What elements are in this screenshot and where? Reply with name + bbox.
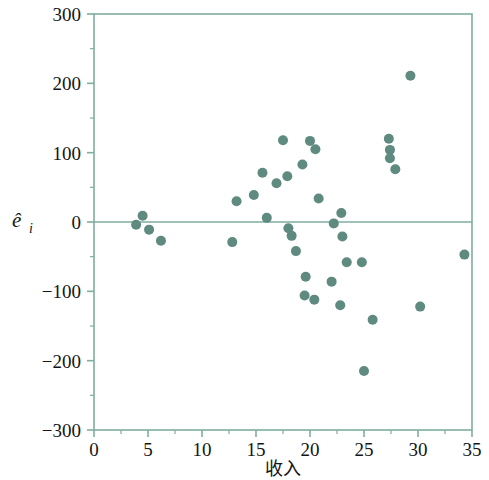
x-tick-label: 5: [143, 439, 153, 460]
x-axis-title: 收入: [265, 458, 301, 479]
data-point: [272, 178, 282, 188]
data-point: [301, 272, 311, 282]
y-tick-label: −200: [42, 351, 81, 372]
data-point: [232, 196, 242, 206]
y-tick-label: −100: [42, 281, 81, 302]
data-point: [309, 295, 319, 305]
data-point: [459, 250, 469, 260]
data-point: [227, 237, 237, 247]
data-point: [257, 168, 267, 178]
data-point: [138, 211, 148, 221]
data-point: [282, 171, 292, 181]
data-point: [262, 213, 272, 223]
x-tick-label: 25: [355, 439, 374, 460]
x-tick-label: 20: [301, 439, 320, 460]
data-point: [287, 231, 297, 241]
data-point: [300, 290, 310, 300]
data-point: [368, 315, 378, 325]
x-tick-label: 10: [193, 439, 212, 460]
y-tick-label: 0: [72, 212, 82, 233]
y-axis-title-subscript: i: [29, 221, 33, 236]
x-tick-label: 30: [409, 439, 428, 460]
data-point: [310, 144, 320, 154]
data-point: [390, 164, 400, 174]
y-axis-title-base: ê: [12, 208, 22, 232]
data-point: [327, 277, 337, 287]
y-tick-label: 100: [53, 143, 82, 164]
data-point: [335, 300, 345, 310]
data-point: [156, 236, 166, 246]
data-point: [359, 366, 369, 376]
data-point: [384, 134, 394, 144]
data-point: [357, 257, 367, 267]
data-point: [405, 71, 415, 81]
x-tick-label: 0: [89, 439, 99, 460]
data-point: [131, 220, 141, 230]
y-tick-label: 300: [53, 4, 82, 25]
x-tick-label: 35: [463, 439, 482, 460]
data-point: [329, 218, 339, 228]
data-point: [278, 135, 288, 145]
data-point: [336, 208, 346, 218]
data-point: [249, 190, 259, 200]
data-point: [291, 246, 301, 256]
data-point: [297, 159, 307, 169]
y-tick-label: −300: [42, 420, 81, 441]
y-axis: 3002001000−100−200−300: [42, 4, 94, 441]
data-point: [337, 232, 347, 242]
x-tick-label: 15: [247, 439, 266, 460]
data-point: [385, 153, 395, 163]
data-point: [342, 257, 352, 267]
data-point: [314, 193, 324, 203]
data-point: [305, 136, 315, 146]
y-tick-label: 200: [53, 73, 82, 94]
data-point: [144, 225, 154, 235]
x-axis: 05101520253035: [89, 430, 481, 460]
scatter-chart: 3002001000−100−200−300 05101520253035 ê …: [0, 0, 489, 480]
y-axis-title: ê i: [12, 208, 33, 236]
data-point: [415, 302, 425, 312]
plot-area: 3002001000−100−200−300 05101520253035 ê …: [0, 0, 489, 480]
